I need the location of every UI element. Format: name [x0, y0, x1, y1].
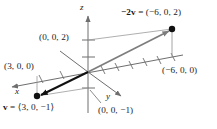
label-x3: (3, 0, 0)	[4, 62, 34, 71]
label-axis-y: y	[106, 92, 110, 101]
label-axis-x: x	[15, 87, 19, 96]
label-v-value: = ⟨3, 0, −1⟩	[8, 102, 54, 112]
label-z2: (0, 0, 2)	[39, 33, 69, 42]
label-neg2v-name: −2v	[121, 7, 136, 17]
x-axis	[12, 53, 183, 87]
z-axis	[82, 16, 95, 113]
vector-neg2v-arrow	[88, 31, 169, 72]
label-negx6: (−6, 0, 0)	[162, 66, 197, 75]
label-zneg1: (0, 0, −1)	[98, 106, 133, 115]
vector-diagram-figure: −2v = (−6, 0, 2) (0, 0, 2) (3, 0, 0) (−6…	[0, 0, 217, 129]
point-neg2v	[169, 26, 175, 32]
label-axis-z: z	[80, 3, 84, 12]
label-neg2v-value: = (−6, 0, 2)	[136, 7, 181, 17]
y-axis	[60, 51, 121, 96]
label-v: v = ⟨3, 0, −1⟩	[3, 103, 54, 112]
label-neg2v: −2v = (−6, 0, 2)	[121, 8, 181, 17]
point-v	[34, 93, 40, 99]
